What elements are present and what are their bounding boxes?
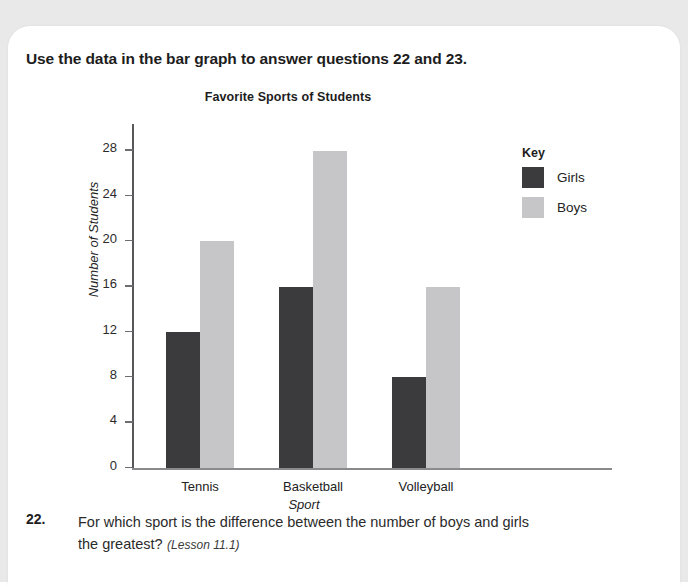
chart-legend: Key GirlsBoys — [522, 146, 652, 227]
x-axis-title: Sport — [224, 497, 384, 512]
y-axis-tick: 24 — [125, 195, 133, 197]
y-axis-tick-label: 8 — [110, 367, 117, 382]
bar-tennis-girls — [166, 332, 200, 468]
x-axis-label-basketball: Basketball — [259, 479, 367, 494]
y-axis-tick-label: 28 — [103, 140, 117, 155]
bar-chart-figure: Favorite Sports of Students 048121620242… — [8, 84, 680, 494]
y-axis-tick-label: 12 — [103, 322, 117, 337]
y-axis-tick-label: 4 — [110, 412, 117, 427]
legend-item-boys: Boys — [522, 197, 652, 218]
legend-title: Key — [522, 146, 652, 160]
y-axis-tick: 12 — [125, 331, 133, 333]
bar-basketball-girls — [279, 287, 313, 468]
legend-swatch-girls — [522, 167, 544, 188]
y-axis-tick-label: 0 — [110, 458, 117, 473]
y-axis-tick: 28 — [125, 149, 133, 151]
bar-basketball-boys — [313, 151, 347, 468]
x-axis-line — [132, 468, 612, 470]
legend-swatch-boys — [522, 197, 544, 218]
y-axis-tick-label: 20 — [103, 231, 117, 246]
legend-item-girls: Girls — [522, 167, 652, 188]
y-axis-tick: 20 — [125, 240, 133, 242]
y-axis-tick: 16 — [125, 285, 133, 287]
question-number: 22. — [26, 511, 78, 555]
chart-title: Favorite Sports of Students — [8, 90, 568, 104]
x-axis-label-tennis: Tennis — [146, 479, 254, 494]
question-22: 22. For which sport is the difference be… — [26, 511, 546, 555]
y-axis-tick: 8 — [125, 376, 133, 378]
bar-volleyball-girls — [392, 377, 426, 468]
legend-items: GirlsBoys — [522, 167, 652, 218]
x-axis-label-volleyball: Volleyball — [372, 479, 480, 494]
y-axis-line — [132, 124, 134, 470]
bar-volleyball-boys — [426, 287, 460, 468]
instruction-text: Use the data in the bar graph to answer … — [26, 50, 467, 68]
worksheet-page: Use the data in the bar graph to answer … — [8, 26, 680, 586]
question-text: For which sport is the difference betwee… — [78, 514, 529, 552]
question-lesson-reference: (Lesson 11.1) — [167, 538, 240, 552]
y-axis-tick: 0 — [125, 467, 133, 469]
legend-label-boys: Boys — [557, 200, 587, 215]
question-body: For which sport is the difference betwee… — [78, 511, 546, 555]
y-axis-title: Number of Students — [86, 182, 101, 298]
y-axis-tick: 4 — [125, 421, 133, 423]
bar-tennis-boys — [200, 241, 234, 468]
y-axis-tick-label: 24 — [103, 186, 117, 201]
y-axis-tick-label: 16 — [103, 276, 117, 291]
legend-label-girls: Girls — [557, 170, 585, 185]
